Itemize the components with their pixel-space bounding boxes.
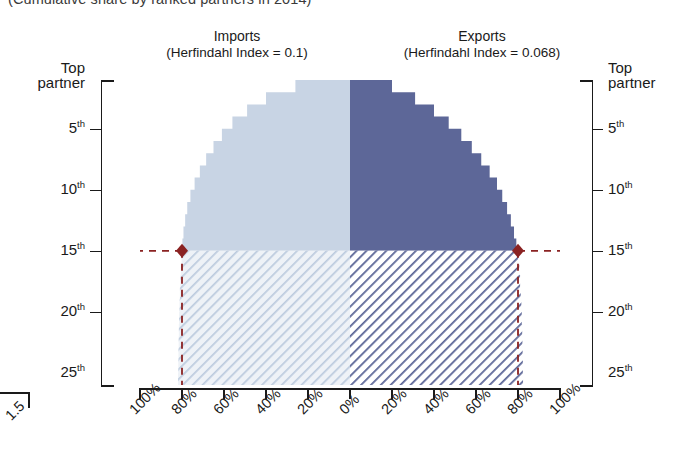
imports-hatched-area bbox=[178, 251, 350, 385]
imports-title-text: Imports bbox=[112, 29, 362, 45]
y-tick-right-10 bbox=[592, 190, 603, 192]
y-axis-label-right-25: 25th bbox=[608, 363, 633, 380]
y-axis-label-left-20: 20th bbox=[0, 302, 85, 319]
imports-panel-title: Imports (Herfindahl Index = 0.1) bbox=[112, 29, 362, 60]
corner-stub-vertical bbox=[28, 392, 30, 408]
x-axis-label-1: 80% bbox=[168, 385, 200, 417]
y-axis-label-left-10: 10th bbox=[0, 180, 85, 197]
imports-herfindahl-label: (Herfindahl Index = 0.1) bbox=[112, 45, 362, 60]
x-axis-label-10: 100% bbox=[546, 380, 584, 418]
y-axis-left-bottom-cap bbox=[101, 385, 114, 387]
exports-solid-area bbox=[350, 80, 518, 251]
x-axis-label-6: 20% bbox=[378, 385, 410, 417]
corner-stub-horizontal bbox=[0, 392, 30, 394]
y-tick-right-5 bbox=[592, 129, 603, 131]
y-axis-label-left-5: 5th bbox=[0, 119, 85, 136]
y-tick-right-15 bbox=[592, 251, 603, 253]
y-tick-right-20 bbox=[592, 312, 603, 314]
imports-solid-area bbox=[182, 80, 350, 251]
exports-panel-title: Exports (Herfindahl Index = 0.068) bbox=[342, 29, 622, 60]
plot-svg bbox=[140, 80, 560, 385]
x-axis-label-9: 80% bbox=[504, 385, 536, 417]
y-tick-left-15 bbox=[90, 251, 101, 253]
exports-herfindahl-label: (Herfindahl Index = 0.068) bbox=[342, 45, 622, 60]
y-axis-right-spine bbox=[592, 80, 593, 385]
plot-area bbox=[140, 80, 560, 385]
exports-title-text: Exports bbox=[342, 29, 622, 45]
chart-root: (Cumulative share by ranked partners in … bbox=[0, 0, 692, 456]
x-axis-label-7: 40% bbox=[420, 385, 452, 417]
y-tick-left-10 bbox=[90, 190, 101, 192]
x-axis-label-4: 20% bbox=[294, 385, 326, 417]
x-axis-label-0: 100% bbox=[126, 380, 164, 418]
y-axis-label-right-top-partner: Toppartner bbox=[608, 60, 656, 91]
y-axis-label-left-25: 25th bbox=[0, 363, 85, 380]
y-axis-right-top-cap bbox=[580, 80, 593, 82]
y-axis-right-bottom-cap bbox=[580, 385, 593, 387]
y-tick-left-5 bbox=[90, 129, 101, 131]
y-tick-left-20 bbox=[90, 312, 101, 314]
chart-subtitle: (Cumulative share by ranked partners in … bbox=[8, 0, 312, 7]
exports-hatched-area bbox=[350, 251, 523, 385]
y-axis-label-right-5: 5th bbox=[608, 119, 624, 136]
y-axis-left-spine bbox=[101, 80, 102, 385]
x-axis-label-8: 60% bbox=[462, 385, 494, 417]
y-axis-label-right-20: 20th bbox=[608, 302, 633, 319]
y-axis-label-right-15: 15th bbox=[608, 241, 633, 258]
y-axis-label-right-10: 10th bbox=[608, 180, 633, 197]
x-axis-label-5: 0% bbox=[336, 391, 362, 417]
y-axis-label-left-15: 15th bbox=[0, 241, 85, 258]
x-axis-label-3: 40% bbox=[252, 385, 284, 417]
x-axis-label-2: 60% bbox=[210, 385, 242, 417]
y-axis-left-top-cap bbox=[101, 80, 114, 82]
y-axis-label-left-top-partner: Toppartner bbox=[0, 60, 85, 91]
